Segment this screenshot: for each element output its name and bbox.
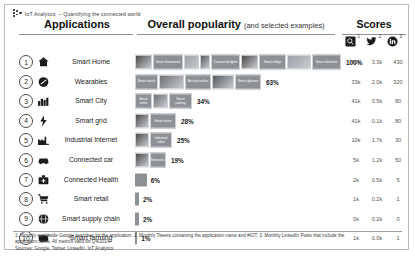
example-label: Smart glasses [235, 74, 261, 89]
table-row: 3Smart CitySmart meterSmart parking34%41… [5, 91, 408, 111]
score-value: 3.3k [367, 59, 387, 65]
score-value: 5 [388, 177, 408, 183]
table-row: 2WearablesSmart watchActivity trackerSma… [5, 72, 408, 92]
example-label: Smart parking [169, 94, 192, 109]
example-photo [135, 133, 149, 148]
score-value: 2k [346, 177, 366, 183]
footnote-line-1: 1. Monthly worldwide Google searches for… [15, 233, 400, 239]
rank-badge: 3 [19, 94, 33, 108]
example-label: Telematics [150, 153, 166, 168]
example-caption [185, 56, 198, 69]
table-row: 6Connected carTelematics19%5k1.2k50 [5, 150, 408, 170]
score-value: 1k [346, 196, 366, 202]
example-caption: Smart watch [136, 75, 157, 88]
score-value: 1 [388, 196, 408, 202]
popularity-value: 34% [197, 98, 210, 105]
example-label: Smart fridge [259, 55, 286, 70]
divider-applications [19, 34, 133, 35]
application-name: Connected car [53, 156, 129, 164]
application-name: Industrial Internet [53, 137, 129, 145]
rank-badge: 1 [19, 55, 33, 69]
footnote-divider [13, 231, 402, 232]
dots-logo-icon [13, 9, 22, 18]
score-value: 61k [346, 59, 366, 65]
table-row: 8Smart retail2%1k0.2k1 [5, 189, 408, 209]
popularity-value: 25% [177, 137, 190, 144]
table-row: 5Industrial InternetIndustrial robot25%1… [5, 130, 408, 150]
table-row: 1Smart HomeSmart thermostatConnected lig… [5, 52, 408, 72]
example-caption [154, 95, 167, 108]
score-value: 0.2k [367, 196, 387, 202]
example-caption: Activity tracker [186, 75, 210, 88]
score-value: 41k [346, 118, 366, 124]
table-row: 9Smart supply chain2%0k0.2k0 [5, 209, 408, 229]
example-caption: Smart doorlock [313, 56, 340, 69]
score-value: 0k [346, 216, 366, 222]
example-photo [135, 113, 149, 128]
example-caption [201, 56, 209, 69]
example-caption: Smart meter [151, 114, 175, 127]
divider-popularity [137, 34, 335, 35]
score-value: 0.2k [367, 216, 387, 222]
column-header-scores: Scores [341, 18, 407, 30]
twitter-bird-icon: 2 [366, 36, 378, 48]
example-photo [184, 55, 199, 70]
example-caption [213, 75, 233, 88]
footnote-line-2: application name. All metrics valid for … [15, 239, 400, 245]
example-label: Smart watch [135, 74, 158, 89]
rank-badge: 4 [19, 114, 33, 128]
example-caption: Smart glasses [236, 75, 260, 88]
application-name: Smart City [53, 97, 129, 105]
example-photo [287, 55, 311, 70]
brand-row: IoT Analytics – Quantifying the connecte… [13, 9, 140, 18]
example-photo [135, 55, 152, 70]
score-value: 33k [346, 79, 366, 85]
example-caption: Connected lights [212, 56, 239, 69]
popularity-value: 63% [266, 78, 279, 85]
score-sup-2: 2 [378, 34, 381, 39]
google-search-icon: 1 [345, 36, 357, 48]
rank-badge: 5 [19, 133, 33, 147]
example-caption [136, 154, 148, 167]
factory-icon [36, 134, 51, 147]
example-label: Smart thermostat [153, 55, 183, 70]
score-value: 0 [388, 216, 408, 222]
example-label: Activity tracker [185, 74, 211, 89]
application-name: Smart grid [53, 117, 129, 125]
shopping-cart-icon [36, 193, 51, 206]
example-photo [135, 153, 149, 168]
example-caption [288, 56, 310, 69]
score-value: 80 [388, 98, 408, 104]
example-caption: Industrial robot [151, 134, 171, 147]
column-header-popularity-sub: (and selected examples) [244, 21, 325, 30]
poster-frame: IoT Analytics – Quantifying the connecte… [4, 4, 409, 250]
score-value: 5k [346, 157, 366, 163]
plug-icon [36, 114, 51, 127]
example-thumbnails: Telematics [135, 153, 167, 168]
example-caption: Smart thermostat [154, 56, 182, 69]
score-value: 41k [346, 98, 366, 104]
score-value: 320 [388, 79, 408, 85]
score-value: 1.2k [367, 157, 387, 163]
city-icon [36, 95, 51, 108]
score-value: 0.1k [367, 118, 387, 124]
example-caption [242, 56, 257, 69]
divider-scores [342, 34, 406, 35]
score-value: 50 [388, 157, 408, 163]
example-label: Connected lights [211, 55, 240, 70]
score-value: 1.7k [367, 137, 387, 143]
popularity-bar [135, 193, 139, 206]
table-row: 4Smart gridSmart meter28%41k0.1k80 [5, 111, 408, 131]
score-value: 430 [388, 59, 408, 65]
popularity-value: 2% [143, 196, 152, 203]
popularity-value: 2% [143, 215, 152, 222]
rank-badge: 9 [19, 212, 33, 226]
column-header-popularity-main: Overall popularity [147, 18, 241, 30]
wearable-icon [36, 75, 51, 88]
application-name: Smart retail [53, 195, 129, 203]
example-caption [136, 56, 151, 69]
example-photo [153, 94, 168, 109]
popularity-value: 6% [151, 176, 160, 183]
example-thumbnails: Smart meter [135, 113, 177, 128]
score-value: 80 [388, 118, 408, 124]
